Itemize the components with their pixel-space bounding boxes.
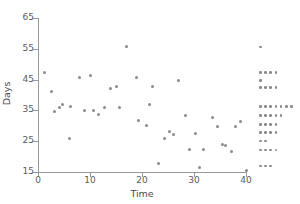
marginal-dot bbox=[275, 114, 278, 117]
marginal-dot bbox=[269, 71, 272, 74]
marginal-dot bbox=[290, 105, 293, 108]
marginal-dot bbox=[259, 71, 262, 74]
marginal-dot bbox=[275, 86, 278, 89]
marginal-dot bbox=[264, 105, 267, 108]
marginal-dot bbox=[259, 114, 262, 117]
data-points-layer bbox=[38, 18, 246, 172]
marginal-dot bbox=[275, 71, 278, 74]
scatter-point bbox=[92, 109, 95, 112]
marginal-dot bbox=[264, 149, 267, 152]
scatter-point bbox=[224, 144, 227, 147]
marginal-dot bbox=[259, 149, 262, 152]
scatter-point bbox=[58, 106, 61, 109]
scatter-point bbox=[89, 74, 92, 77]
marginal-dot bbox=[269, 149, 272, 152]
scatter-point bbox=[118, 106, 121, 109]
marginal-dot bbox=[264, 123, 267, 126]
scatter-point bbox=[109, 87, 112, 90]
scatter-point bbox=[53, 110, 56, 113]
marginal-dot bbox=[264, 131, 267, 134]
scatter-point bbox=[239, 120, 242, 123]
x-tick-label: 20 bbox=[130, 175, 154, 185]
scatter-point bbox=[172, 133, 175, 136]
marginal-dot bbox=[269, 131, 272, 134]
scatter-point bbox=[69, 105, 72, 108]
marginal-dot bbox=[269, 165, 272, 168]
marginal-dot bbox=[259, 123, 262, 126]
marginal-dot bbox=[275, 123, 278, 126]
y-tick-label: 55 bbox=[12, 44, 34, 53]
marginal-dot bbox=[259, 79, 262, 82]
x-axis-label: Time bbox=[0, 188, 284, 199]
marginal-dot bbox=[275, 131, 278, 134]
scatter-point bbox=[135, 76, 138, 79]
scatter-point bbox=[97, 113, 100, 116]
marginal-dot bbox=[264, 114, 267, 117]
scatter-point bbox=[188, 148, 191, 151]
marginal-dot bbox=[275, 149, 278, 152]
scatter-point bbox=[194, 132, 197, 135]
y-tick-label: 45 bbox=[12, 75, 34, 84]
marginal-dot bbox=[269, 123, 272, 126]
x-tick-label: 40 bbox=[234, 175, 258, 185]
scatter-point bbox=[230, 150, 233, 153]
scatter-point bbox=[151, 85, 154, 88]
scatter-point bbox=[184, 114, 187, 117]
scatter-point bbox=[145, 124, 148, 127]
scatter-plot-figure: 152535455565 010203040 Time Days bbox=[0, 0, 300, 204]
scatter-point bbox=[103, 106, 106, 109]
scatter-point bbox=[163, 137, 166, 140]
marginal-dot bbox=[269, 114, 272, 117]
scatter-point bbox=[216, 125, 219, 128]
scatter-point bbox=[125, 45, 128, 48]
scatter-point bbox=[198, 166, 201, 169]
marginal-dot bbox=[259, 131, 262, 134]
scatter-point bbox=[61, 103, 64, 106]
x-tick-label: 0 bbox=[26, 175, 50, 185]
marginal-dot bbox=[259, 86, 262, 89]
marginal-dot bbox=[280, 105, 283, 108]
y-axis-label: Days bbox=[1, 74, 12, 114]
marginal-dot bbox=[259, 165, 262, 168]
scatter-point bbox=[78, 76, 81, 79]
scatter-point bbox=[68, 137, 71, 140]
y-tick-label: 35 bbox=[12, 105, 34, 114]
scatter-point bbox=[83, 109, 86, 112]
marginal-dot bbox=[259, 46, 262, 49]
marginal-dot bbox=[269, 86, 272, 89]
scatter-point bbox=[137, 119, 140, 122]
marginal-dot bbox=[275, 105, 278, 108]
scatter-point bbox=[177, 79, 180, 82]
y-tick-label: 65 bbox=[12, 13, 34, 22]
scatter-point bbox=[234, 125, 237, 128]
marginal-dot bbox=[264, 165, 267, 168]
scatter-point bbox=[168, 130, 171, 133]
y-tick-label: 25 bbox=[12, 136, 34, 145]
scatter-point bbox=[202, 148, 205, 151]
marginal-dot bbox=[264, 86, 267, 89]
scatter-point bbox=[211, 116, 214, 119]
scatter-point bbox=[245, 169, 248, 172]
marginal-dot bbox=[259, 140, 262, 143]
scatter-point bbox=[50, 90, 53, 93]
marginal-dot bbox=[259, 105, 262, 108]
x-tick-label: 30 bbox=[182, 175, 206, 185]
marginal-dot bbox=[264, 140, 267, 143]
marginal-dot bbox=[280, 114, 283, 117]
marginal-dot bbox=[269, 105, 272, 108]
marginal-dot bbox=[285, 105, 288, 108]
scatter-point bbox=[157, 162, 160, 165]
scatter-point bbox=[43, 71, 46, 74]
x-tick-label: 10 bbox=[78, 175, 102, 185]
scatter-point bbox=[115, 85, 118, 88]
scatter-point bbox=[148, 103, 151, 106]
marginal-dot bbox=[264, 71, 267, 74]
